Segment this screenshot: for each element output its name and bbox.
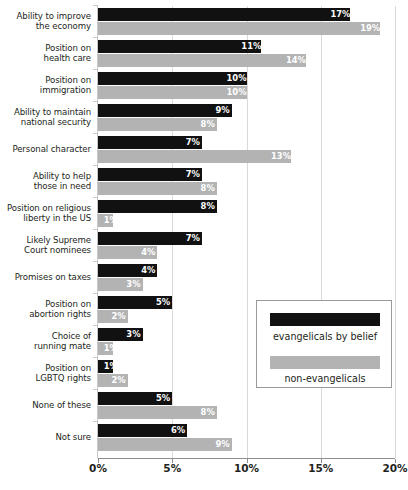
y-axis-tick <box>93 69 98 70</box>
y-axis-tick <box>93 5 98 6</box>
chart-legend: evangelicals by beliefnon-evangelicals <box>256 300 392 388</box>
bar-value-label: 2% <box>108 374 126 387</box>
bar-value-label: 17% <box>330 8 348 21</box>
bar-value-label: 14% <box>286 54 304 67</box>
bar-value-label: 5% <box>152 296 170 309</box>
y-axis-tick <box>93 389 98 390</box>
bar-value-label: 11% <box>241 40 259 53</box>
x-tick-label: 10% <box>234 462 259 474</box>
gridline-15% <box>321 6 322 458</box>
bar-value-label: 19% <box>360 22 378 35</box>
x-tick-label: 20% <box>382 462 407 474</box>
bar-value-label: 3% <box>123 328 141 341</box>
bar-value-label: 4% <box>137 246 155 259</box>
bar-value-label: 7% <box>182 232 200 245</box>
bar-gray <box>98 86 247 99</box>
bar-value-label: 1% <box>100 360 118 373</box>
category-label: Ability to help those in need <box>0 171 91 192</box>
bar-value-label: 9% <box>212 438 230 451</box>
bar-value-label: 13% <box>271 150 289 163</box>
bar-value-label: 10% <box>227 86 245 99</box>
legend-swatch-non-evangelicals <box>270 356 380 369</box>
category-label: Promises on taxes <box>0 272 91 283</box>
bar-value-label: 6% <box>167 424 185 437</box>
bar-value-label: 1% <box>100 214 118 227</box>
bar-value-label: 7% <box>182 136 200 149</box>
bar-chart: Ability to improve the economyPosition o… <box>0 0 408 490</box>
category-label: Not sure <box>0 432 91 443</box>
bar-value-label: 5% <box>152 392 170 405</box>
y-axis-tick <box>93 293 98 294</box>
gridline-20% <box>395 6 396 458</box>
bar-gray <box>98 150 291 163</box>
category-label: Position on religious liberty in the US <box>0 203 91 224</box>
legend-swatch-evangelicals <box>270 313 380 326</box>
y-axis-tick <box>93 101 98 102</box>
y-axis-tick <box>93 133 98 134</box>
legend-label: evangelicals by belief <box>257 331 393 342</box>
bar-value-label: 1% <box>100 342 118 355</box>
bar-value-label: 3% <box>123 278 141 291</box>
bar-black <box>98 8 350 21</box>
y-axis-tick <box>93 357 98 358</box>
bar-value-label: 8% <box>197 182 215 195</box>
bar-value-label: 7% <box>182 168 200 181</box>
category-label: Position on abortion rights <box>0 299 91 320</box>
x-tick-label: 15% <box>308 462 333 474</box>
y-axis-tick <box>93 197 98 198</box>
bar-black <box>98 40 261 53</box>
bar-value-label: 8% <box>197 200 215 213</box>
y-axis-tick <box>93 261 98 262</box>
bar-value-label: 2% <box>108 310 126 323</box>
y-axis-tick <box>93 165 98 166</box>
category-label: None of these <box>0 400 91 411</box>
bar-gray <box>98 54 306 67</box>
category-label: Ability to maintain national security <box>0 107 91 128</box>
y-axis-tick <box>93 37 98 38</box>
y-axis-tick <box>93 229 98 230</box>
legend-label: non-evangelicals <box>257 373 393 384</box>
bar-value-label: 10% <box>227 72 245 85</box>
category-label: Personal character <box>0 144 91 155</box>
category-label: Ability to improve the economy <box>0 11 91 32</box>
x-tick-label: 5% <box>163 462 181 474</box>
category-label: Position on health care <box>0 43 91 64</box>
x-tick-label: 0% <box>89 462 107 474</box>
y-axis-tick <box>93 421 98 422</box>
bar-value-label: 8% <box>197 118 215 131</box>
category-label: Position on immigration <box>0 75 91 96</box>
bar-value-label: 4% <box>137 264 155 277</box>
bar-gray <box>98 22 380 35</box>
bar-black <box>98 72 247 85</box>
y-axis-tick <box>93 325 98 326</box>
bar-value-label: 8% <box>197 406 215 419</box>
category-label: Position on LGBTQ rights <box>0 363 91 384</box>
category-label: Likely Supreme Court nominees <box>0 235 91 256</box>
plot-area: 17%19%11%14%10%10%9%8%7%13%7%8%8%1%7%4%4… <box>98 6 395 458</box>
category-label: Choice of running mate <box>0 331 91 352</box>
bar-value-label: 9% <box>212 104 230 117</box>
